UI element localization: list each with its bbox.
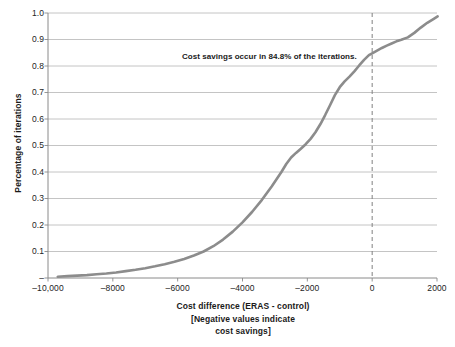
- x-axis-title-line-2: [Negative values indicate: [48, 313, 438, 326]
- cost-savings-annotation: Cost savings occur in 84.8% of the itera…: [182, 52, 357, 61]
- x-tick-label: 2000: [427, 283, 446, 293]
- x-tick-label: –2000: [295, 283, 319, 293]
- cdf-chart: –0.10.20.30.40.50.60.70.80.91.0 –10,000–…: [0, 0, 455, 347]
- y-tick-label: –: [0, 274, 44, 283]
- x-tick-label: –6000: [166, 283, 190, 293]
- y-tick-label: 1.0: [0, 9, 44, 18]
- y-axis-title: Percentage of iterations: [13, 78, 23, 208]
- x-tick-label: –10,000: [32, 283, 63, 293]
- y-tick-label: 0.8: [0, 62, 44, 71]
- x-tick-label: –4000: [230, 283, 254, 293]
- y-tick-label: 0.9: [0, 35, 44, 44]
- x-axis-tick-labels: –10,000–8000–6000–4000–200002000: [0, 283, 455, 297]
- x-tick-label: 0: [370, 283, 375, 293]
- x-axis-title-line-3: cost savings]: [48, 325, 438, 338]
- y-tick-label: 0.2: [0, 221, 44, 230]
- y-tick-label: 0.1: [0, 247, 44, 256]
- x-axis-title: Cost difference (ERAS - control) [Negati…: [48, 300, 438, 338]
- x-tick-label: –8000: [101, 283, 125, 293]
- x-axis-title-line-1: Cost difference (ERAS - control): [48, 300, 438, 313]
